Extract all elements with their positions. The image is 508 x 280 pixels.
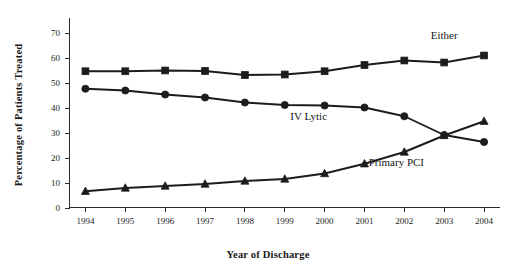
marker-circle	[201, 94, 208, 101]
y-axis-title: Percentage of Patients Treated	[13, 44, 24, 187]
y-tick-label: 50	[51, 78, 61, 88]
x-tick-label: 1998	[236, 216, 255, 226]
marker-circle	[241, 99, 248, 106]
series-label-either: Either	[431, 29, 458, 41]
y-tick-label: 40	[51, 103, 61, 113]
x-axis-title: Year of Discharge	[226, 249, 309, 260]
y-axis-ticks: 010203040506070	[51, 28, 70, 213]
marker-circle	[361, 104, 368, 111]
marker-square	[361, 62, 368, 69]
line-chart: Percentage of Patients Treated Year of D…	[0, 0, 508, 280]
series-label-iv-lytic: IV Lytic	[290, 110, 327, 122]
x-tick-label: 2001	[355, 216, 373, 226]
y-tick-label: 10	[51, 178, 61, 188]
x-tick-label: 1995	[116, 216, 135, 226]
marker-circle	[122, 87, 129, 94]
x-tick-label: 1994	[76, 216, 95, 226]
marker-circle	[82, 85, 89, 92]
marker-circle	[162, 91, 169, 98]
chart-container: Percentage of Patients Treated Year of D…	[0, 0, 508, 280]
x-tick-label: 1999	[276, 216, 295, 226]
series-label-primary-pci: Primary PCI	[369, 156, 425, 168]
marker-square	[202, 68, 209, 75]
x-tick-label: 1997	[196, 216, 215, 226]
marker-circle	[281, 101, 288, 108]
y-tick-label: 60	[51, 53, 61, 63]
marker-circle	[321, 102, 328, 109]
x-axis-title-text: Year of Discharge	[226, 249, 309, 260]
series-line-iv-lytic	[85, 89, 484, 142]
marker-circle	[401, 113, 408, 120]
y-tick-label: 20	[51, 153, 61, 163]
y-tick-label: 30	[51, 128, 61, 138]
x-tick-label: 1996	[156, 216, 175, 226]
x-tick-label: 2002	[395, 216, 413, 226]
marker-square	[82, 68, 89, 75]
marker-square	[241, 72, 248, 79]
series-labels: EitherIV LyticPrimary PCI	[290, 29, 458, 169]
marker-square	[122, 68, 129, 75]
x-tick-label: 2000	[316, 216, 335, 226]
y-tick-label: 70	[51, 28, 61, 38]
marker-square	[321, 68, 328, 75]
series-markers	[81, 52, 488, 194]
x-tick-label: 2003	[435, 216, 454, 226]
x-tick-label: 2004	[475, 216, 494, 226]
marker-square	[401, 57, 408, 64]
y-axis-title-text: Percentage of Patients Treated	[13, 44, 24, 187]
x-axis-ticks: 1994199519961997199819992000200120022003…	[76, 208, 493, 226]
marker-square	[481, 52, 488, 59]
marker-square	[441, 59, 448, 66]
marker-triangle	[480, 117, 488, 124]
marker-circle	[480, 138, 487, 145]
y-tick-label: 0	[56, 203, 61, 213]
marker-square	[281, 71, 288, 78]
marker-square	[162, 67, 169, 74]
